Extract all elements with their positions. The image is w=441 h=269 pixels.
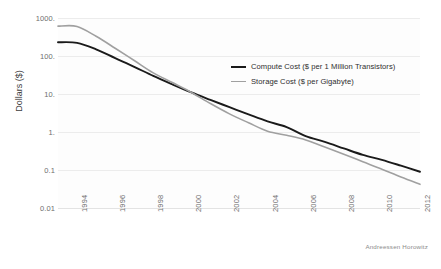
y-axis-title: Dollars ($) [14,56,24,126]
legend-item-storage[interactable]: Storage Cost ($ per Gigabyte) [231,75,431,88]
y-axis-tick: 100. [40,52,55,61]
x-axis-tick: 2004 [271,195,280,213]
gridline [58,18,420,19]
legend-item-compute[interactable]: Compute Cost ($ per 1 Million Transistor… [231,60,431,73]
y-axis-tick-labels: 1000.100.10.1.0.10.01 [18,0,55,269]
x-axis-tick: 1998 [156,195,165,213]
x-axis-tick: 2012 [423,195,432,213]
chart-legend: Compute Cost ($ per 1 Million Transistor… [231,60,431,90]
y-axis-tick: 1. [49,128,55,137]
gridline [58,94,420,95]
gridline [58,56,420,57]
x-axis-tick: 1994 [80,195,89,213]
x-axis-tick: 2008 [347,195,356,213]
y-axis-tick: 1000. [36,14,55,23]
legend-swatch-storage-icon [231,81,246,82]
chart-container: 1000.100.10.1.0.10.01 Dollars ($) 199419… [0,0,441,269]
legend-label-compute: Compute Cost ($ per 1 Million Transistor… [251,62,395,71]
x-axis-tick: 2006 [309,195,318,213]
x-axis-tick: 2010 [385,195,394,213]
gridline [58,170,420,171]
x-axis-tick: 2002 [232,195,241,213]
plot-area [58,18,420,208]
y-axis-tick: 10. [44,90,55,99]
y-axis-tick: 0.1 [44,166,55,175]
legend-label-storage: Storage Cost ($ per Gigabyte) [251,77,354,86]
x-axis-tick: 1996 [118,195,127,213]
gridline [58,132,420,133]
x-axis-tick: 2000 [194,195,203,213]
legend-swatch-compute-icon [231,66,246,68]
y-axis-tick: 0.01 [40,204,55,213]
chart-credit: Andreessen Horowitz [365,243,428,250]
